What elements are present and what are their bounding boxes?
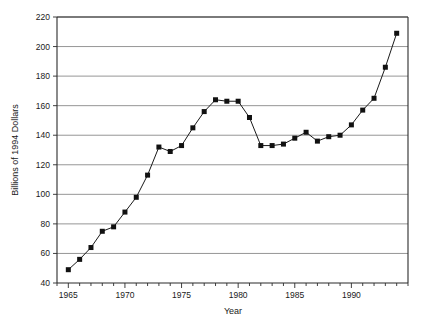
- data-point: [315, 139, 320, 144]
- y-tick-label: 120: [36, 160, 50, 170]
- x-tick-label: 1970: [115, 290, 134, 300]
- data-point: [326, 134, 331, 139]
- line-chart: 406080100120140160180200220 196519701975…: [0, 0, 428, 323]
- y-tick-label: 140: [36, 130, 50, 140]
- data-point: [258, 143, 263, 148]
- data-point: [349, 122, 354, 127]
- data-point: [202, 109, 207, 114]
- chart-container: 406080100120140160180200220 196519701975…: [0, 0, 428, 323]
- y-tick-label: 60: [41, 248, 51, 258]
- x-tick-label: 1990: [342, 290, 361, 300]
- data-point: [338, 133, 343, 138]
- data-point: [66, 267, 71, 272]
- y-axis-title: Billions of 1994 Dollars: [10, 104, 20, 196]
- data-point: [394, 31, 399, 36]
- data-point: [304, 130, 309, 135]
- data-point: [100, 229, 105, 234]
- data-point: [383, 65, 388, 70]
- data-point: [360, 108, 365, 113]
- data-point: [145, 173, 150, 178]
- data-point: [88, 245, 93, 250]
- data-point: [134, 195, 139, 200]
- x-tick-label: 1980: [229, 290, 248, 300]
- data-point: [77, 257, 82, 262]
- data-point: [179, 143, 184, 148]
- x-tick-label: 1965: [59, 290, 78, 300]
- y-tick-label: 180: [36, 71, 50, 81]
- data-point: [236, 99, 241, 104]
- y-tick-label: 40: [41, 278, 51, 288]
- data-point: [111, 224, 116, 229]
- data-point: [168, 149, 173, 154]
- x-tick-label: 1975: [172, 290, 191, 300]
- x-tick-label: 1985: [285, 290, 304, 300]
- data-point: [156, 145, 161, 150]
- y-tick-label: 200: [36, 42, 50, 52]
- y-tick-label: 160: [36, 101, 50, 111]
- y-tick-label: 100: [36, 189, 50, 199]
- y-tick-label: 220: [36, 12, 50, 22]
- data-point: [372, 96, 377, 101]
- y-tick-label: 80: [41, 219, 51, 229]
- data-point: [122, 210, 127, 215]
- data-point: [213, 97, 218, 102]
- data-point: [281, 142, 286, 147]
- data-point: [224, 99, 229, 104]
- chart-background: [0, 0, 428, 323]
- data-point: [247, 115, 252, 120]
- data-point: [190, 125, 195, 130]
- data-point: [292, 136, 297, 141]
- x-axis-title: Year: [224, 306, 242, 316]
- data-point: [270, 143, 275, 148]
